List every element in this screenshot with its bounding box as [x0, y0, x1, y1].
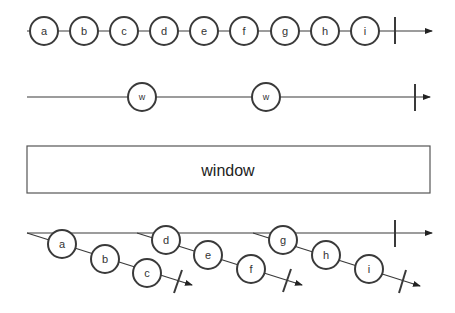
svg-text:e: e — [201, 25, 207, 37]
marble-w-1: w — [128, 83, 156, 111]
svg-text:b: b — [102, 253, 108, 265]
window-2-marble-e: e — [194, 241, 222, 269]
output-stream: a b c d e f g h i — [27, 220, 432, 293]
window-2-marble-d: d — [152, 226, 180, 254]
marble-g: g — [271, 17, 299, 45]
svg-text:w: w — [138, 92, 146, 102]
window-2-completion-tick — [283, 269, 291, 292]
svg-text:b: b — [81, 25, 87, 37]
svg-text:g: g — [282, 25, 288, 37]
window-3-marble-i: i — [355, 255, 383, 283]
svg-text:d: d — [161, 25, 167, 37]
svg-text:a: a — [59, 238, 66, 250]
operator-box: window — [27, 146, 430, 193]
marble-d: d — [150, 17, 178, 45]
svg-text:i: i — [364, 25, 366, 37]
svg-text:e: e — [205, 249, 211, 261]
window-marble-diagram: a b c d e f g h i w w window a b c — [0, 0, 455, 313]
operator-label: window — [200, 162, 255, 179]
marble-a: a — [30, 17, 58, 45]
window-2-marble-f: f — [237, 255, 265, 283]
svg-text:c: c — [144, 267, 150, 279]
marble-f: f — [230, 17, 258, 45]
svg-text:a: a — [41, 25, 48, 37]
source-stream: a b c d e f g h i — [27, 17, 432, 45]
marble-b: b — [70, 17, 98, 45]
window-1-marble-c: c — [133, 259, 161, 287]
svg-text:h: h — [322, 25, 328, 37]
svg-text:c: c — [121, 25, 127, 37]
svg-text:i: i — [368, 263, 370, 275]
window-3-marble-g: g — [269, 226, 297, 254]
window-3-marble-h: h — [312, 241, 340, 269]
marble-w-2: w — [252, 83, 280, 111]
boundary-stream: w w — [27, 83, 430, 111]
svg-text:g: g — [280, 234, 286, 246]
svg-text:h: h — [323, 249, 329, 261]
svg-text:d: d — [163, 234, 169, 246]
marble-h: h — [311, 17, 339, 45]
marble-e: e — [190, 17, 218, 45]
window-1-marble-a: a — [48, 230, 76, 258]
marble-i: i — [351, 17, 379, 45]
window-1-marble-b: b — [91, 245, 119, 273]
marble-c: c — [110, 17, 138, 45]
svg-text:w: w — [262, 92, 270, 102]
